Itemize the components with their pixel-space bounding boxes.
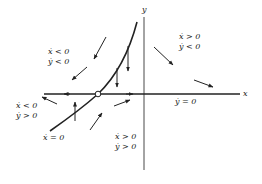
region-lower-left-line2: ẏ > 0 [16,111,37,121]
phase-portrait-diagram [0,0,262,184]
region-upper-left-line2: ẏ < 0 [48,57,69,67]
x-axis-label: x [243,89,248,99]
region-lower-left-line1: ẋ < 0 [16,101,37,111]
region-lower-right-line2: ẏ > 0 [115,142,136,152]
x-dot-zero-label: ẋ = 0 [43,133,64,143]
region-upper-right-line2: ẏ < 0 [179,42,200,52]
region-label-lower-right: ẋ > 0 ẏ > 0 [115,132,136,152]
flow-arrow [72,67,87,80]
flow-arrow [154,47,173,65]
flow-arrow [42,97,57,104]
region-label-upper-right: ẋ > 0 ẏ < 0 [179,32,200,52]
region-upper-left-line1: ẋ < 0 [48,47,69,57]
flow-arrow [114,100,130,106]
flow-arrow [94,37,106,59]
region-upper-right-line1: ẋ > 0 [179,32,200,42]
flow-arrow [194,80,213,87]
saddle-fixed-point [95,91,101,97]
y-dot-zero-label: ẏ = 0 [175,97,196,107]
y-axis-label: y [142,5,147,15]
x-dot-nullcline-curve [50,22,137,131]
flow-arrow [90,113,102,130]
region-lower-right-line1: ẋ > 0 [115,132,136,142]
region-label-upper-left: ẋ < 0 ẏ < 0 [48,47,69,67]
region-label-lower-left: ẋ < 0 ẏ > 0 [16,101,37,121]
